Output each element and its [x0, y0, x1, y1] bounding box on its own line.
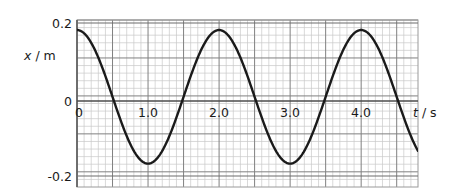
x-tick-label-3.0: 3.0: [280, 105, 300, 120]
displacement-time-graph: 0.2 0 -0.2 x/ m 0 1.0 2.0 3.0 4.0 t/ s: [0, 0, 457, 193]
y-tick-label-minus-0.2: -0.2: [48, 169, 72, 184]
x-axis-title-unit: / s: [422, 105, 437, 120]
x-tick-label-0: 0: [75, 105, 83, 120]
x-tick-label-2.0: 2.0: [209, 105, 229, 120]
x-tick-label-4.0: 4.0: [351, 105, 371, 120]
x-tick-label-1.0: 1.0: [138, 105, 158, 120]
y-tick-label-0.2: 0.2: [52, 16, 72, 31]
y-axis-title-unit: / m: [35, 48, 55, 63]
y-axis-title-variable: x: [23, 48, 32, 63]
y-axis-title: x/ m: [23, 48, 56, 63]
x-axis-title: t/ s: [413, 105, 437, 120]
y-tick-label-0: 0: [64, 94, 72, 109]
